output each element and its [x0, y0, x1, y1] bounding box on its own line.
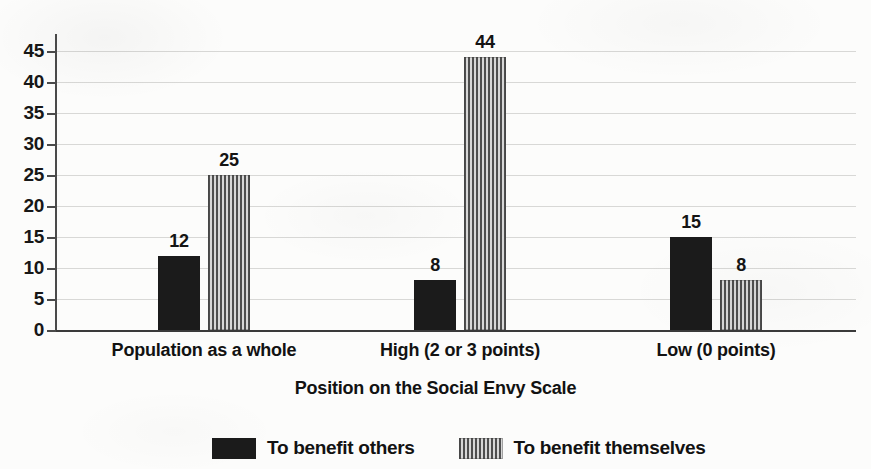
gridline [57, 206, 856, 207]
y-axis-tick-mark [47, 330, 56, 332]
y-axis-tick-mark [47, 82, 56, 84]
legend-label: To benefit others [267, 437, 415, 459]
y-axis-tick-label: 40 [0, 71, 44, 93]
bar [208, 175, 250, 330]
y-axis-tick-label: 25 [0, 164, 44, 186]
y-axis-tick-mark [47, 268, 56, 270]
y-axis-tick-label: 0 [0, 319, 44, 341]
bar [414, 280, 456, 330]
y-axis-tick-mark [47, 237, 56, 239]
bar-value-label: 15 [681, 212, 700, 233]
bar-value-label: 12 [169, 231, 188, 252]
y-axis-tick-mark [47, 51, 56, 53]
legend-item-to-benefit-others: To benefit others [212, 437, 415, 459]
x-axis-category-label: Low (0 points) [656, 340, 775, 361]
y-axis-tick-label: 45 [0, 40, 44, 62]
solid-swatch-icon [212, 438, 256, 459]
y-axis-tick-mark [47, 175, 56, 177]
y-axis-tick-mark [47, 113, 56, 115]
gridline [57, 51, 856, 52]
y-axis-tick-label: 20 [0, 195, 44, 217]
y-axis-tick-label: 10 [0, 257, 44, 279]
bar [670, 237, 712, 330]
striped-swatch-icon [459, 438, 503, 459]
gridline [57, 144, 856, 145]
chart-legend: To benefit others To benefit themselves [212, 437, 705, 459]
y-axis-tick-label: 15 [0, 226, 44, 248]
gridline [57, 175, 856, 176]
bar-chart: 051015202530354045 1225844158 Population… [0, 0, 871, 469]
bar-value-label: 8 [736, 255, 746, 276]
plot-area [57, 51, 856, 330]
y-axis-line [55, 34, 57, 332]
x-axis-category-label: High (2 or 3 points) [380, 340, 540, 361]
x-axis-title: Position on the Social Envy Scale [0, 378, 871, 399]
bar [158, 256, 200, 330]
x-axis-category-label: Population as a whole [112, 340, 297, 361]
y-axis-tick-mark [47, 144, 56, 146]
y-axis-tick-mark [47, 299, 56, 301]
legend-label: To benefit themselves [514, 437, 706, 459]
bar [464, 57, 506, 330]
bar-value-label: 25 [219, 150, 238, 171]
x-axis-line [55, 330, 856, 332]
legend-item-to-benefit-themselves: To benefit themselves [459, 437, 706, 459]
gridline [57, 113, 856, 114]
gridline [57, 82, 856, 83]
y-axis-tick-label: 30 [0, 133, 44, 155]
bar [720, 280, 762, 330]
bar-value-label: 44 [475, 32, 494, 53]
bar-value-label: 8 [430, 255, 440, 276]
y-axis-tick-label: 5 [0, 288, 44, 310]
y-axis-tick-label: 35 [0, 102, 44, 124]
y-axis-tick-mark [47, 206, 56, 208]
